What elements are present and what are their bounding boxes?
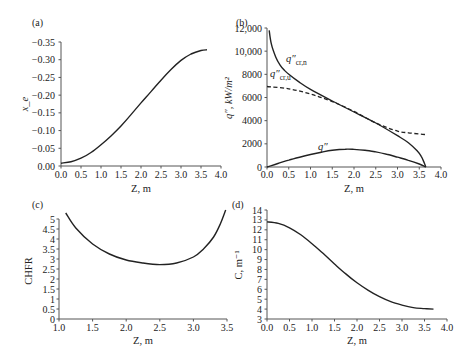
series-line-a-0 [61,50,207,163]
x-tick-label: 3.5 [418,322,431,333]
x-tick-label: 4.0 [435,169,448,180]
y-tick-label: 10,000 [235,46,263,57]
y-tick-label: −0.15 [32,107,55,118]
curve-annotation: q″cr,u [270,68,291,82]
y-tick-label: 6000 [242,92,262,103]
y-tick-label: 1.5 [43,284,56,295]
panel-c: (c)1.01.52.02.53.03.500.511.522.533.544.… [23,199,233,346]
x-tick-label: 1.0 [306,322,319,333]
y-axis-label: C, m⁻¹ [233,250,244,279]
y-tick-label: −0.25 [32,72,55,83]
panel-b: (b)0.00.51.01.52.02.53.03.54.00200040006… [223,17,447,194]
x-tick-label: 3.0 [396,322,409,333]
panel-a: (a)0.00.51.01.52.02.53.03.54.00.00−0.05−… [19,17,227,194]
x-axis-label: Z, m [131,183,151,194]
x-tick-label: 1.5 [115,169,128,180]
y-tick-label: −0.20 [32,90,55,101]
x-tick-label: 1.5 [86,322,99,333]
x-axis-label: Z, m [133,335,153,346]
y-tick-label: 4 [50,234,55,245]
x-tick-label: 0.0 [261,322,274,333]
x-tick-label: 0.5 [283,322,296,333]
x-tick-label: 3.5 [195,169,208,180]
y-tick-label: 11 [252,234,262,245]
y-tick-label: 4.5 [43,224,56,235]
x-tick-label: 1.5 [328,322,341,333]
series-line-b-1 [267,87,426,135]
x-tick-label: 2.0 [351,322,364,333]
x-tick-label: 3.5 [221,322,234,333]
y-tick-label: 0.5 [43,304,56,315]
y-tick-label: −0.05 [32,143,55,154]
x-axis-label: Z, m [344,183,364,194]
panel-d: (d)0.00.51.01.52.02.53.03.54.03456789101… [232,199,453,346]
y-tick-label: 3.5 [43,244,56,255]
y-tick-label: 0 [257,162,262,173]
y-tick-label: 12,000 [235,23,263,34]
y-tick-label: 8000 [242,69,262,80]
x-tick-label: 4.0 [215,169,228,180]
y-tick-label: 2.5 [43,264,56,275]
x-tick-label: 3.5 [413,169,426,180]
y-tick-label: 0.00 [38,161,56,172]
x-tick-label: 3.0 [187,322,200,333]
y-tick-label: 1 [50,294,55,305]
x-tick-label: 2.5 [155,169,168,180]
x-tick-label: 4.0 [441,322,454,333]
x-tick-label: 0.0 [261,169,274,180]
y-tick-label: 2000 [242,138,262,149]
x-tick-label: 0.5 [75,169,88,180]
y-tick-label: 8 [257,264,262,275]
y-tick-label: 3 [50,254,55,265]
panel-label: (d) [232,199,244,211]
series-line-d-0 [267,222,434,309]
y-tick-label: 6 [257,284,262,295]
series-line-b-2 [267,149,426,167]
y-tick-label: 14 [252,205,262,216]
y-tick-label: 12 [252,224,262,235]
curve-annotation: q″ [318,141,328,152]
y-tick-label: 4 [257,304,262,315]
x-tick-label: 1.5 [326,169,339,180]
y-tick-label: 5 [257,294,262,305]
x-axis-label: Z, m [347,335,367,346]
y-axis-label: CHFR [23,257,34,284]
figure: (a)0.00.51.01.52.02.53.03.54.00.00−0.05−… [0,0,475,364]
x-tick-label: 1.0 [304,169,317,180]
y-tick-label: 3 [257,314,262,325]
panel-label: (c) [32,199,43,211]
y-tick-label: 2 [50,274,55,285]
x-tick-label: 2.0 [135,169,148,180]
x-tick-label: 2.5 [154,322,167,333]
x-tick-label: 1.0 [95,169,108,180]
y-tick-label: 4000 [242,115,262,126]
y-tick-label: 13 [252,214,262,225]
series-line-b-0 [269,30,426,167]
x-tick-label: 3.0 [391,169,404,180]
x-tick-label: 2.0 [348,169,361,180]
y-axis-label: q″, kW/m² [223,76,234,119]
curve-annotation: q″cr,n [286,53,307,67]
y-tick-label: −0.30 [32,54,55,65]
y-tick-label: 5 [50,214,55,225]
y-tick-label: 10 [252,244,262,255]
y-tick-label: −0.35 [32,37,55,48]
y-tick-label: 7 [257,274,262,285]
y-tick-label: −0.10 [32,125,55,136]
x-tick-label: 2.0 [120,322,133,333]
y-tick-label: 9 [257,254,262,265]
x-tick-label: 0.5 [283,169,296,180]
x-tick-label: 3.0 [175,169,188,180]
y-tick-label: 0 [50,314,55,325]
y-axis-label: x_e [19,96,30,112]
series-line-c-0 [66,210,226,265]
x-tick-label: 2.5 [373,322,386,333]
panel-label: (a) [32,17,43,29]
x-tick-label: 2.5 [370,169,383,180]
x-tick-label: 0.0 [55,169,68,180]
